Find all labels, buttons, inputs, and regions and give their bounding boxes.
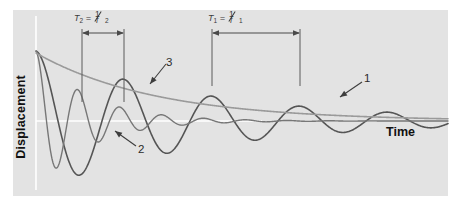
callout-arrowhead-1 bbox=[340, 91, 347, 97]
dim-T2-den-subscript: 2 bbox=[105, 17, 109, 24]
x-axis-label: Time bbox=[386, 125, 415, 139]
dimension-arrowhead-left-T1 bbox=[212, 30, 219, 36]
callout-arrowhead-2 bbox=[115, 131, 122, 137]
dimension-arrowhead-right-T1 bbox=[293, 30, 300, 36]
callout-1: 1 bbox=[364, 72, 370, 84]
dimension-arrowhead-left-T2 bbox=[82, 30, 89, 36]
dimension-label-T1: T1 =1f1 bbox=[208, 12, 243, 24]
plot-svg bbox=[0, 0, 460, 210]
dim-T1-fraction: 1f bbox=[225, 12, 239, 23]
dim-T1-subscript: 1 bbox=[214, 17, 218, 24]
dim-T2-subscript: 2 bbox=[80, 17, 84, 24]
dim-T1-den-subscript: 1 bbox=[239, 17, 243, 24]
dim-T2-fraction: 1f bbox=[91, 12, 105, 23]
curve-curve-1 bbox=[36, 51, 448, 175]
dim-T2-denominator: f bbox=[96, 15, 98, 25]
y-axis-label-text: Displacement bbox=[14, 62, 28, 172]
dimension-label-T2: T2 =1f2 bbox=[74, 12, 109, 24]
callout-2: 2 bbox=[138, 143, 144, 155]
figure-container: Displacement Time T2 =1f2 T1 =1f1 1 2 3 bbox=[0, 0, 460, 210]
y-axis-label: Displacement bbox=[14, 0, 30, 62]
dim-T1-denominator: f bbox=[230, 15, 232, 25]
callout-3: 3 bbox=[166, 56, 172, 68]
dimension-arrowhead-right-T2 bbox=[117, 30, 124, 36]
curve-curve-3 bbox=[36, 53, 448, 119]
